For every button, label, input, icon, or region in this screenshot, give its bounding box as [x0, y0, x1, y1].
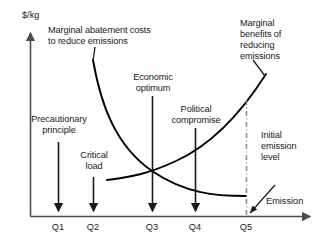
- x-tick-q4: Q4: [183, 222, 207, 232]
- economic-optimum-label: Economic optimum: [119, 72, 187, 94]
- precautionary-principle-label: Precautionary principle: [16, 114, 102, 136]
- x-tick-q5: Q5: [234, 222, 258, 232]
- mb-leader-line: [253, 60, 265, 76]
- x-axis-label: Emission: [266, 196, 303, 206]
- marginal-benefit-label: Marginal benefits of reducing emissions: [240, 18, 281, 62]
- mac-leader-line: [93, 47, 95, 61]
- critical-load-label: Critical load: [68, 150, 120, 172]
- emissions-abatement-diagram: $/kg Emission Marginal abatement costs t…: [0, 0, 321, 245]
- y-axis-label: $/kg: [22, 10, 39, 20]
- x-tick-q3: Q3: [140, 222, 164, 232]
- initial-emission-level-label: Initial emission level: [261, 130, 296, 163]
- marginal-abatement-cost-label: Marginal abatement costs to reduce emiss…: [48, 25, 151, 47]
- political-compromise-label: Political compromise: [159, 104, 233, 126]
- x-tick-q1: Q1: [46, 222, 70, 232]
- x-tick-q2: Q2: [81, 222, 105, 232]
